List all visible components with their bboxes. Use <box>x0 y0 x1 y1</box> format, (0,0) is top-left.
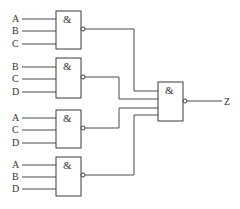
gate-2: B C D & <box>12 58 85 98</box>
gate-1: A B C & <box>12 11 85 49</box>
input-label: C <box>12 73 19 84</box>
input-label: D <box>12 137 19 148</box>
inverter-bubble-icon <box>81 75 85 79</box>
input-label: A <box>12 13 20 24</box>
and-symbol: & <box>63 159 72 171</box>
output-gate: & Z <box>158 82 230 121</box>
input-label: B <box>12 61 19 72</box>
input-label: A <box>12 112 20 123</box>
inverter-bubble-icon <box>81 27 85 31</box>
connection-wire-2 <box>85 77 158 99</box>
logic-circuit-diagram: A B C & B C D & A C D & A B D <box>0 0 240 209</box>
connection-wire-3 <box>85 108 158 128</box>
input-label: D <box>12 183 19 194</box>
input-label: C <box>12 124 19 135</box>
gate-4: A B D & <box>12 157 85 196</box>
input-label: D <box>12 86 19 97</box>
input-label: B <box>12 171 19 182</box>
inverter-bubble-icon <box>81 173 85 177</box>
gate-3: A C D & <box>12 110 85 148</box>
and-symbol: & <box>63 13 72 25</box>
input-label: B <box>12 25 19 36</box>
connection-wire-1 <box>85 29 158 91</box>
inverter-bubble-icon <box>81 126 85 130</box>
output-label: Z <box>224 96 230 107</box>
and-symbol: & <box>165 84 174 96</box>
and-symbol: & <box>63 112 72 124</box>
and-symbol: & <box>63 60 72 72</box>
input-label: C <box>12 38 19 49</box>
input-label: A <box>12 159 20 170</box>
inverter-bubble-icon <box>183 99 187 103</box>
connection-wire-4 <box>85 115 158 175</box>
